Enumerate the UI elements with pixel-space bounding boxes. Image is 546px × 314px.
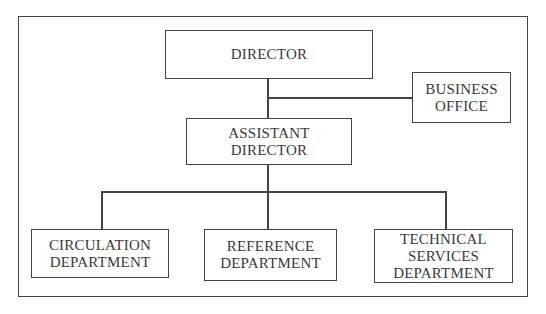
node-technical-services-department: TECHNICAL SERVICES DEPARTMENT [374,229,513,283]
node-director: DIRECTOR [165,30,373,79]
node-label: DIRECTOR [231,46,307,63]
node-label: DEPARTMENT [50,254,151,271]
connector-departments-bus [101,191,446,193]
connector-circulation [101,191,103,230]
connector-business-office [268,97,413,99]
node-label: DIRECTOR [231,142,307,159]
node-business-office: BUSINESS OFFICE [412,72,511,123]
node-assistant-director: ASSISTANT DIRECTOR [186,118,352,165]
node-label: DEPARTMENT [220,255,321,272]
node-label: DEPARTMENT [393,265,494,282]
node-label: OFFICE [435,98,488,115]
node-label: SERVICES [408,248,479,265]
node-label: ASSISTANT [228,125,309,142]
node-label: TECHNICAL [400,231,487,248]
node-reference-department: REFERENCE DEPARTMENT [204,229,337,281]
connector-technical [445,191,447,230]
node-label: REFERENCE [227,238,315,255]
node-label: BUSINESS [425,81,497,98]
node-label: CIRCULATION [49,237,151,254]
connector-director-assistant [267,78,269,119]
node-circulation-department: CIRCULATION DEPARTMENT [31,229,169,278]
connector-assistant-down [267,164,269,230]
